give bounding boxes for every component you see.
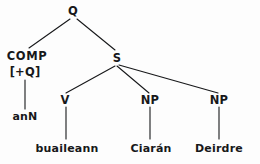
node-s: S: [113, 51, 122, 65]
node-root-q: Q: [68, 4, 78, 18]
node-comp: COMP: [7, 49, 48, 63]
terminal-ciaran: Ciarán: [130, 142, 171, 155]
terminal-buaileann: buaileann: [35, 142, 98, 155]
syntax-tree-figure: Q COMP [+Q] S V NP NP anN buaileann Ciar…: [0, 0, 260, 164]
node-comp-feature: [+Q]: [10, 65, 41, 79]
node-np-subject: NP: [141, 93, 160, 107]
terminal-deirdre: Deirdre: [195, 142, 243, 155]
tree-node-labels: Q COMP [+Q] S V NP NP anN buaileann Ciar…: [0, 0, 260, 164]
node-np-object: NP: [210, 93, 229, 107]
node-v: V: [60, 93, 69, 107]
terminal-ann: anN: [12, 110, 37, 123]
